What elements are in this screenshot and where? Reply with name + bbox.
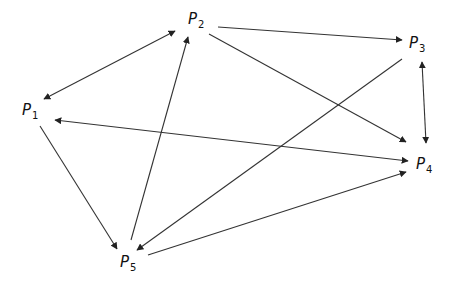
node-p3: P3 [409, 36, 425, 54]
node-p4-base: P [416, 155, 425, 173]
node-p4-sub: 4 [426, 164, 432, 175]
edge-p1-p2 [44, 31, 175, 99]
edge-p3-p5 [137, 59, 402, 250]
edge-p2-p4 [209, 34, 406, 142]
node-p5-sub: 5 [130, 262, 136, 273]
edge-p5-p2 [131, 37, 188, 240]
edges-layer [0, 0, 452, 287]
node-p1-base: P [22, 101, 31, 119]
node-p1-sub: 1 [32, 110, 38, 121]
node-p2-sub: 2 [198, 19, 204, 30]
node-p3-base: P [409, 34, 418, 52]
edge-p4-p1 [55, 120, 408, 161]
node-p2: P2 [188, 12, 204, 30]
edge-p1-p5 [40, 126, 117, 249]
graph-canvas: P1 P2 P3 P4 P5 [0, 0, 452, 287]
node-p4: P4 [416, 157, 432, 175]
node-p3-sub: 3 [419, 43, 425, 54]
edge-p3-p4 [422, 62, 426, 143]
edge-p5-p4 [148, 172, 406, 255]
node-p1: P1 [22, 103, 38, 121]
node-p2-base: P [188, 10, 197, 28]
node-p5-base: P [120, 253, 129, 271]
node-p5: P5 [120, 255, 136, 273]
edge-p2-p3 [218, 27, 402, 40]
